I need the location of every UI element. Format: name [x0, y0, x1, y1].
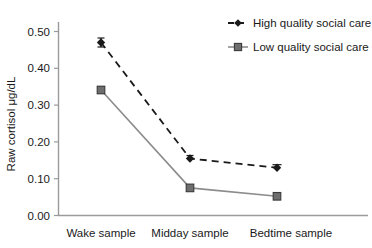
line-chart-canvas: 0.00 0.10 0.20 0.30 0.40 0.50 Raw cortis…: [0, 0, 372, 248]
y-tick-label-5: 0.50: [28, 26, 50, 38]
x-category-label-wake: Wake sample: [66, 227, 135, 239]
data-point-low-bedtime: [273, 193, 281, 201]
y-tick-label-4: 0.40: [28, 62, 50, 74]
data-point-low-wake: [97, 86, 105, 94]
y-tick-label-0: 0.00: [28, 210, 50, 222]
y-axis-title: Raw cortisol μg/dL: [5, 76, 17, 171]
x-category-label-bedtime: Bedtime sample: [250, 227, 332, 239]
y-tick-label-3: 0.30: [28, 99, 50, 111]
y-tick-label-2: 0.20: [28, 136, 50, 148]
chart-figure: 0.00 0.10 0.20 0.30 0.40 0.50 Raw cortis…: [0, 0, 372, 248]
x-category-label-midday: Midday sample: [151, 227, 228, 239]
legend-marker-square-icon: [234, 43, 241, 50]
data-point-low-midday: [186, 184, 194, 192]
y-tick-label-1: 0.10: [28, 173, 50, 185]
legend-label-high-quality: High quality social care: [253, 17, 371, 29]
chart-background: [0, 0, 372, 248]
legend-label-low-quality: Low quality social care: [253, 41, 369, 53]
